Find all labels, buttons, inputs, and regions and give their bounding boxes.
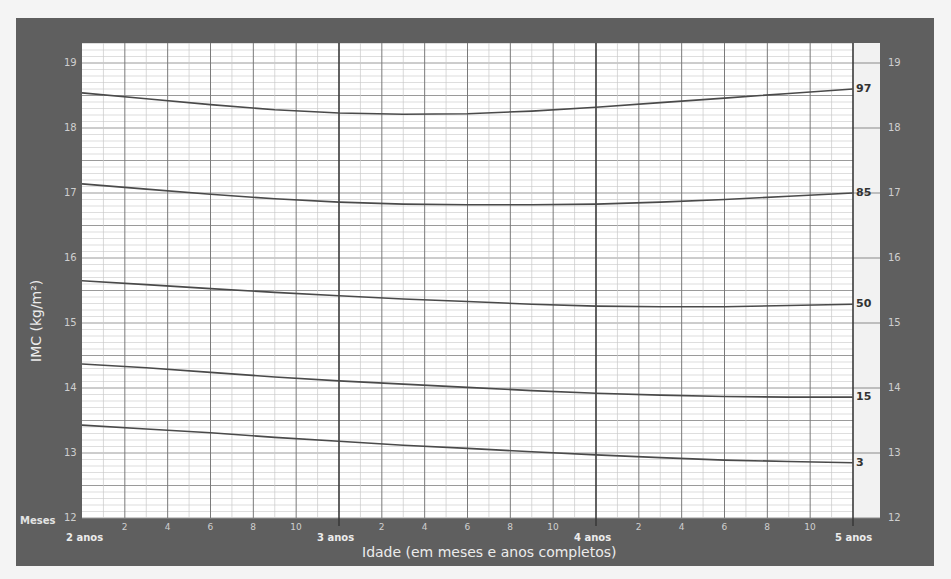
- x-year-tick-24: 2 anos: [66, 532, 103, 543]
- y-tick-right-19: 19: [888, 57, 901, 68]
- x-month-tick-2: 2: [379, 522, 385, 532]
- y-tick-right-18: 18: [888, 122, 901, 133]
- x-month-tick-4: 4: [679, 522, 685, 532]
- percentile-label-3: 3: [856, 456, 864, 469]
- x-year-tick-36: 3 anos: [317, 532, 354, 543]
- y-tick-right-12: 12: [888, 512, 901, 523]
- percentile-label-85: 85: [856, 186, 871, 199]
- percentile-label-15: 15: [856, 390, 871, 403]
- y-tick-left-19: 19: [64, 57, 77, 68]
- x-month-tick-8: 8: [507, 522, 513, 532]
- y-tick-left-14: 14: [64, 382, 77, 393]
- x-month-tick-6: 6: [465, 522, 471, 532]
- y-tick-right-14: 14: [888, 382, 901, 393]
- x-month-tick-8: 8: [764, 522, 770, 532]
- growth-chart-plot: [0, 0, 951, 579]
- x-year-tick-48: 4 anos: [574, 532, 611, 543]
- x-month-tick-6: 6: [208, 522, 214, 532]
- x-month-tick-10: 10: [290, 522, 301, 532]
- percentile-label-97: 97: [856, 82, 871, 95]
- y-tick-right-17: 17: [888, 187, 901, 198]
- x-month-tick-10: 10: [804, 522, 815, 532]
- x-year-tick-60: 5 anos: [835, 532, 872, 543]
- y-tick-left-18: 18: [64, 122, 77, 133]
- months-label: Meses: [20, 515, 55, 526]
- x-month-tick-2: 2: [636, 522, 642, 532]
- x-axis-title: Idade (em meses e anos completos): [362, 544, 617, 560]
- y-tick-left-16: 16: [64, 252, 77, 263]
- x-month-tick-4: 4: [165, 522, 171, 532]
- y-tick-right-13: 13: [888, 447, 901, 458]
- y-tick-left-15: 15: [64, 317, 77, 328]
- x-month-tick-8: 8: [250, 522, 256, 532]
- percentile-label-50: 50: [856, 297, 871, 310]
- y-tick-left-17: 17: [64, 187, 77, 198]
- y-tick-left-13: 13: [64, 447, 77, 458]
- y-tick-left-12: 12: [64, 512, 77, 523]
- x-month-tick-2: 2: [122, 522, 128, 532]
- x-month-tick-6: 6: [722, 522, 728, 532]
- x-month-tick-10: 10: [547, 522, 558, 532]
- y-tick-right-16: 16: [888, 252, 901, 263]
- x-month-tick-4: 4: [422, 522, 428, 532]
- y-tick-right-15: 15: [888, 317, 901, 328]
- y-axis-title: IMC (kg/m²): [28, 280, 44, 362]
